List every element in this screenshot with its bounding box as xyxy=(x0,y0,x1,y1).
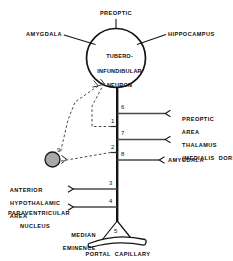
median-eminence-number: 5 xyxy=(114,228,117,234)
label-aha-line-1: ANTERIOR xyxy=(10,187,43,193)
branch-3-arrowhead xyxy=(68,186,73,192)
branch-4-number: 4 xyxy=(109,198,112,204)
axon-tick-2-number: 2 xyxy=(111,144,114,150)
soma-label: TUBERO- INFUNDIBULAR NEURON xyxy=(86,46,146,96)
label-me-line-1: MEDIAN xyxy=(71,232,96,238)
diagram-canvas: TUBERO- INFUNDIBULAR NEURON PREOPTIC AMY… xyxy=(0,0,233,261)
axon-tick-1-number: 1 xyxy=(111,118,114,124)
label-me-line-2: EMINENCE xyxy=(63,245,96,251)
label-preoptic: PREOPTIC xyxy=(86,10,146,17)
branch-7-number: 7 xyxy=(121,130,124,136)
branch-7-arrowhead xyxy=(165,136,170,142)
soma-label-line-1: TUBERO- xyxy=(106,53,133,59)
label-hippocampus: HIPPOCAMPUS xyxy=(168,31,230,38)
amygdala-top-input-line xyxy=(64,35,96,45)
portal-capillary-shape xyxy=(88,237,146,248)
label-preoptic-area-line-2: AREA xyxy=(182,129,200,135)
branch-3-number: 3 xyxy=(109,180,112,186)
feedback-node-arrowhead xyxy=(62,156,67,164)
label-portal-capillary: PORTAL CAPILLARY xyxy=(78,251,158,258)
label-amygdala-branch: AMYGDALA xyxy=(168,157,226,164)
label-pvn-line-1: PARAVENTRICULAR xyxy=(8,210,70,216)
label-thalamus-line-1: THALAMUS xyxy=(182,142,217,148)
branch-8-number: 8 xyxy=(121,151,124,157)
hippocampus-input-line xyxy=(137,35,166,45)
label-amygdala-top: AMYGDALA xyxy=(14,31,62,38)
feedback-node-number: 9 xyxy=(57,147,60,153)
soma-label-line-2: INFUNDIBULAR xyxy=(97,68,142,74)
label-preoptic-area-line-1: PREOPTIC xyxy=(182,116,214,122)
label-pvn-line-2: NUCLEUS xyxy=(20,223,50,230)
branch-6-arrowhead xyxy=(165,110,170,116)
soma-label-line-3: NEURON xyxy=(107,82,132,88)
branch-8-arrowhead xyxy=(159,157,164,163)
feedback-node-to-axon-dashed xyxy=(61,153,111,162)
feedback-node-circle xyxy=(45,152,60,167)
branch-6-number: 6 xyxy=(121,104,124,110)
